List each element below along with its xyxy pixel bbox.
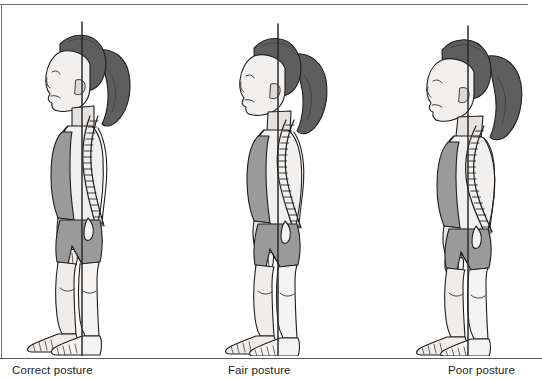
feet	[226, 336, 300, 356]
legs	[254, 265, 297, 338]
neck	[72, 106, 94, 128]
legs	[445, 268, 488, 339]
face-profile	[46, 51, 90, 112]
caption-divider-rule	[0, 358, 542, 359]
top-border-rule	[0, 4, 528, 5]
legs	[56, 262, 99, 336]
posture-figure-poor	[392, 8, 542, 356]
caption-poor-posture: Poor posture	[448, 364, 515, 376]
caption-fair-posture: Fair posture	[228, 364, 291, 376]
posture-figure-correct	[2, 8, 192, 356]
shorts	[254, 224, 300, 267]
feet	[28, 334, 102, 355]
shorts	[56, 220, 102, 264]
ponytail	[488, 56, 522, 140]
feet	[417, 337, 491, 356]
caption-correct-posture: Correct posture	[12, 364, 93, 376]
posture-figure-fair	[200, 8, 390, 356]
face-profile	[427, 59, 474, 122]
posture-illustration-panel: Correct posture Fair posture Poor postur…	[0, 0, 542, 381]
